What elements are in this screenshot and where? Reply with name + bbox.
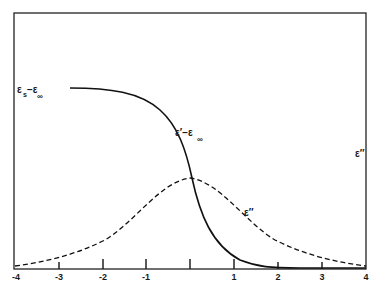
annotation-eps-double-prime: ε″ bbox=[244, 207, 254, 218]
tick-label: -1 bbox=[142, 272, 150, 282]
tick-label: 3 bbox=[319, 272, 324, 282]
tick-label: 1 bbox=[231, 272, 236, 282]
svg-text:∞: ∞ bbox=[197, 135, 203, 144]
x-axis-tick-labels: -4 -3 -2 -1 1 2 3 4 bbox=[12, 272, 369, 282]
eps-double-prime-curve bbox=[15, 178, 366, 266]
svg-text:ε: ε bbox=[17, 84, 22, 95]
tick-label: 4 bbox=[363, 272, 368, 282]
tick-label: -3 bbox=[55, 272, 63, 282]
tick-label: -4 bbox=[12, 272, 20, 282]
tick-label: -2 bbox=[99, 272, 107, 282]
svg-text:∞: ∞ bbox=[37, 92, 43, 101]
annotation-eps-double-prime-right: ε″ bbox=[355, 148, 365, 159]
annotation-es-minus-einf: ε s −ε ∞ bbox=[17, 84, 43, 101]
svg-text:ε′−ε: ε′−ε bbox=[175, 127, 193, 138]
debye-relaxation-chart: -4 -3 -2 -1 1 2 3 4 ε s −ε ∞ ε′−ε ∞ ε″ ε… bbox=[0, 0, 378, 303]
annotation-eps-prime-minus-einf: ε′−ε ∞ bbox=[175, 127, 203, 144]
eps-prime-curve bbox=[70, 88, 366, 268]
plot-frame bbox=[14, 13, 366, 269]
tick-label: 2 bbox=[275, 272, 280, 282]
